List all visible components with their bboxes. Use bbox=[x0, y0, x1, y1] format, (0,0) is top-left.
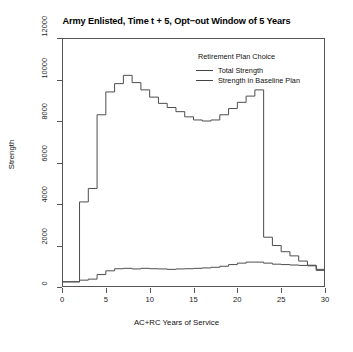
legend-item-total-strength: Total Strength bbox=[196, 65, 300, 75]
series-line-strength-in-baseline-plan bbox=[62, 262, 325, 282]
legend-item-baseline-plan: Strength in Baseline Plan bbox=[196, 75, 300, 85]
x-tick-mark bbox=[106, 288, 107, 293]
x-tick-label: 20 bbox=[225, 295, 249, 304]
legend-line-swatch-total-strength bbox=[196, 70, 213, 71]
legend-label-total-strength: Total Strength bbox=[218, 66, 263, 75]
x-tick-mark bbox=[325, 288, 326, 293]
x-tick-label: 30 bbox=[313, 295, 337, 304]
x-tick-mark bbox=[194, 288, 195, 293]
x-tick-mark bbox=[62, 288, 63, 293]
x-tick-label: 10 bbox=[138, 295, 162, 304]
y-axis-title: Strength bbox=[7, 140, 16, 169]
legend-line-swatch-baseline-plan bbox=[196, 80, 213, 81]
legend: Retirement Plan Choice Total Strength St… bbox=[196, 52, 300, 85]
x-tick-label: 25 bbox=[269, 295, 293, 304]
legend-label-baseline-plan: Strength in Baseline Plan bbox=[218, 76, 300, 85]
x-axis-title: AC+RC Years of Service bbox=[0, 318, 353, 327]
x-tick-mark bbox=[150, 288, 151, 293]
x-tick-label: 0 bbox=[50, 295, 74, 304]
chart-title: Army Enlisted, Time t + 5, Opt−out Windo… bbox=[0, 16, 353, 26]
x-tick-label: 15 bbox=[182, 295, 206, 304]
x-tick-label: 5 bbox=[94, 295, 118, 304]
chart-container: Army Enlisted, Time t + 5, Opt−out Windo… bbox=[0, 0, 353, 352]
x-tick-mark bbox=[281, 288, 282, 293]
series-line-total-strength bbox=[62, 75, 325, 281]
legend-title: Retirement Plan Choice bbox=[196, 52, 300, 61]
x-tick-mark bbox=[237, 288, 238, 293]
